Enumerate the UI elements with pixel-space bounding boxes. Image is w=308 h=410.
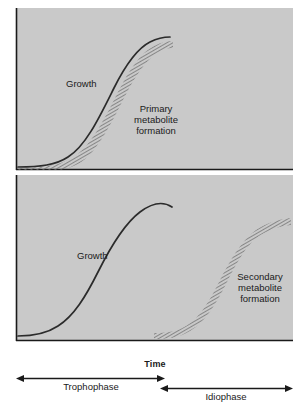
growth-label-bottom: Growth bbox=[77, 250, 108, 261]
primary-metabolite-label-line2: metabolite bbox=[118, 114, 194, 125]
trophophase-label: Trophophase bbox=[52, 381, 130, 392]
secondary-metabolite-label-line3: formation bbox=[222, 293, 298, 304]
secondary-metabolite-label-line2: metabolite bbox=[222, 282, 298, 293]
growth-label-top: Growth bbox=[66, 78, 97, 89]
idiophase-label: Idiophase bbox=[194, 391, 258, 402]
top-panel bbox=[16, 8, 293, 174]
time-axis-label: Time bbox=[137, 359, 173, 370]
top-panel-background bbox=[16, 8, 293, 170]
primary-metabolite-label-line3: formation bbox=[118, 125, 194, 136]
figure-container: Growth Primary metabolite formation Grow… bbox=[0, 0, 308, 410]
secondary-metabolite-label: Secondary metabolite formation bbox=[222, 271, 298, 304]
primary-metabolite-label: Primary metabolite formation bbox=[118, 103, 194, 136]
growth-metabolite-figure bbox=[0, 0, 308, 410]
bottom-panel bbox=[16, 175, 293, 341]
primary-metabolite-label-line1: Primary bbox=[118, 103, 194, 114]
secondary-metabolite-label-line1: Secondary bbox=[222, 271, 298, 282]
bottom-panel-background bbox=[16, 175, 293, 341]
